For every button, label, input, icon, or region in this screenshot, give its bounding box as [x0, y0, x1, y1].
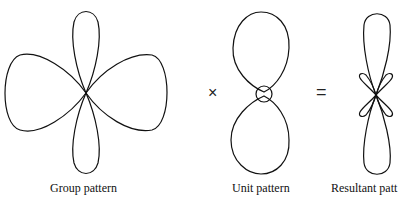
- unit-pattern-label: Unit pattern: [232, 181, 290, 196]
- group-pattern: [5, 12, 167, 174]
- resultant-pattern-label: Resultant patt: [331, 181, 397, 196]
- pattern-multiplication-diagram: [0, 0, 398, 200]
- unit-pattern: [231, 12, 289, 174]
- equals-operator: =: [316, 82, 327, 103]
- resultant-pattern: [359, 14, 392, 175]
- multiply-operator: ×: [208, 84, 217, 102]
- group-pattern-label: Group pattern: [50, 181, 117, 196]
